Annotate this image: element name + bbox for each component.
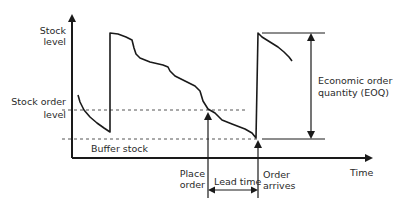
order-arrives-label-2: arrives [263, 180, 296, 191]
place-order-label-2: order [180, 179, 205, 190]
y-axis-label-2: level [43, 36, 66, 47]
reorder-level-label-2: level [43, 109, 66, 120]
stock-level-curve [78, 33, 292, 138]
x-axis-label: Time [349, 167, 373, 178]
buffer-stock-label: Buffer stock [91, 143, 149, 154]
eoq-label: Economic order [318, 75, 392, 86]
eoq-label-2: quantity (EOQ) [318, 87, 389, 98]
y-axis-label: Stock [40, 25, 67, 36]
inventory-diagram: Stock level Stock order level Buffer sto… [0, 0, 397, 213]
order-arrives-label: Order [263, 169, 290, 180]
reorder-level-label: Stock order [11, 96, 66, 107]
place-order-label: Place [180, 168, 205, 179]
lead-time-label: Lead time [214, 176, 261, 187]
